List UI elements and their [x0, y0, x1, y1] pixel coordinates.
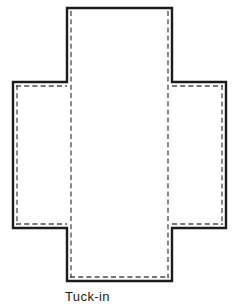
net-outline-fill: [13, 8, 226, 281]
diagram-canvas: Tuck-in: [0, 0, 238, 308]
carton-net-drawing: [0, 0, 238, 308]
tuck-in-label: Tuck-in: [65, 289, 110, 304]
